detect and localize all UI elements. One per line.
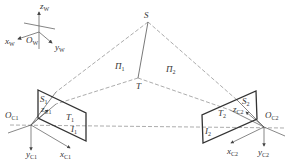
plane-pi2-label: Π2: [166, 65, 176, 75]
t1-label: T1: [66, 113, 74, 123]
point-t-label: T: [136, 82, 141, 91]
y-c1-label: yC1: [26, 150, 37, 160]
s-t-line: [138, 22, 148, 78]
stereo-geometry-figure: zW xW OW yW S T Π1 Π2 OC1 S1 zC1 T1 I1 y…: [0, 0, 293, 162]
y-w-label: yW: [55, 43, 65, 53]
point-s-label: S: [144, 11, 149, 20]
z-w-label: zW: [40, 2, 49, 12]
o-c1-label: OC1: [5, 111, 19, 121]
y-c2-label: yC2: [258, 148, 269, 158]
o-c2-label: OC2: [265, 111, 279, 121]
plane-pi1-label: Π1: [115, 62, 125, 72]
i1-label: I1: [71, 125, 77, 135]
i2-label: I2: [205, 127, 211, 137]
t2-label: T2: [218, 109, 226, 119]
z-c2-label: zC2: [233, 105, 244, 115]
x-c1-label: xC1: [60, 150, 71, 160]
z-c1-label: zC1: [41, 105, 52, 115]
diagram-lines: [0, 0, 293, 162]
x-c2-label: xC2: [227, 147, 238, 157]
x-w-label: xW: [5, 37, 15, 47]
o-w-label: OW: [26, 36, 38, 46]
